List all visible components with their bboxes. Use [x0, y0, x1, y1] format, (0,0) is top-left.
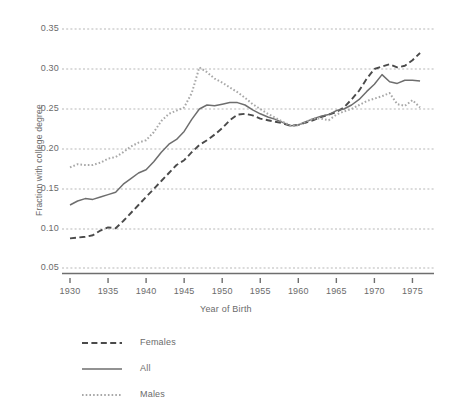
data-series-group: [70, 53, 420, 238]
x-axis-title: Year of Birth: [200, 304, 252, 314]
gridlines-group: [62, 29, 434, 268]
series-line-females: [70, 53, 420, 238]
x-tick-label: 1955: [247, 286, 273, 296]
legend-label-females: Females: [140, 337, 176, 347]
x-tick-label: 1970: [361, 286, 387, 296]
x-tick-label: 1935: [95, 286, 121, 296]
x-tick-label: 1975: [399, 286, 425, 296]
y-tick-label: 0.35: [33, 23, 59, 33]
series-line-all: [70, 75, 420, 205]
x-tick-label: 1965: [323, 286, 349, 296]
x-tick-label: 1945: [171, 286, 197, 296]
series-line-males: [70, 67, 420, 167]
y-tick-label: 0.30: [33, 63, 59, 73]
y-tick-label: 0.10: [33, 223, 59, 233]
x-tick-label: 1950: [209, 286, 235, 296]
legend-label-males: Males: [140, 389, 165, 399]
x-tick-marks-group: [70, 278, 412, 283]
y-axis-title: Fraction with college degree: [34, 104, 44, 216]
line-chart-plot: [0, 0, 449, 409]
x-tick-label: 1930: [57, 286, 83, 296]
legend-swatches-group: [82, 343, 122, 395]
chart-figure: 0.050.100.150.200.250.300.35 19301935194…: [0, 0, 449, 409]
y-tick-label: 0.05: [33, 262, 59, 272]
x-tick-label: 1940: [133, 286, 159, 296]
x-tick-label: 1960: [285, 286, 311, 296]
legend-label-all: All: [140, 363, 151, 373]
